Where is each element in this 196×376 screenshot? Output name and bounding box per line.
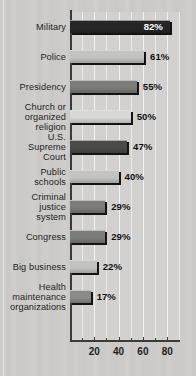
x-axis-tick-labels: 20406080 bbox=[70, 346, 190, 362]
category-label: Big business bbox=[2, 262, 66, 272]
bar[interactable] bbox=[70, 170, 119, 183]
bar-value-label: 29% bbox=[111, 201, 130, 212]
bar[interactable] bbox=[70, 260, 97, 273]
chart-row: Presidency55% bbox=[0, 72, 196, 102]
bar-value-label: 29% bbox=[111, 231, 130, 242]
chart-row: Big business22% bbox=[0, 252, 196, 282]
bar[interactable] bbox=[70, 230, 105, 243]
category-label: Police bbox=[2, 52, 66, 62]
bar[interactable] bbox=[70, 50, 144, 63]
category-label: Military bbox=[2, 22, 66, 32]
chart-row: Public schools40% bbox=[0, 162, 196, 192]
chart-row: U.S. Supreme Court47% bbox=[0, 132, 196, 162]
bar-value-label: 82% bbox=[144, 21, 163, 32]
category-label: Presidency bbox=[2, 82, 66, 92]
bar-value-label: 17% bbox=[97, 291, 116, 302]
category-label: Criminal justice system bbox=[2, 192, 66, 223]
chart-rows: Military82%Police61%Presidency55%Church … bbox=[0, 12, 196, 342]
bar[interactable] bbox=[70, 140, 127, 153]
category-label: U.S. Supreme Court bbox=[2, 132, 66, 163]
bar-value-label: 47% bbox=[133, 141, 152, 152]
chart-row: Church or organized religion50% bbox=[0, 102, 196, 132]
chart-row: Military82% bbox=[0, 12, 196, 42]
chart-row: Police61% bbox=[0, 42, 196, 72]
x-tick-label-20: 20 bbox=[89, 346, 100, 357]
bar-value-label: 22% bbox=[103, 261, 122, 272]
category-label: Public schools bbox=[2, 167, 66, 187]
x-tick-label-80: 80 bbox=[162, 346, 173, 357]
bar[interactable] bbox=[70, 200, 105, 213]
chart-row: Congress29% bbox=[0, 222, 196, 252]
category-label: Church or organized religion bbox=[2, 102, 66, 133]
bar-value-label: 40% bbox=[125, 171, 144, 182]
chart-row: Criminal justice system29% bbox=[0, 192, 196, 222]
category-label: Congress bbox=[2, 232, 66, 242]
x-tick-label-60: 60 bbox=[137, 346, 148, 357]
bar-value-label: 55% bbox=[143, 81, 162, 92]
bar-chart: Military82%Police61%Presidency55%Church … bbox=[0, 0, 196, 376]
bar[interactable] bbox=[70, 80, 137, 93]
bar[interactable] bbox=[70, 110, 131, 123]
chart-row: Health maintenance organizations17% bbox=[0, 282, 196, 312]
bar[interactable] bbox=[70, 290, 91, 303]
bar-value-label: 50% bbox=[137, 111, 156, 122]
category-label: Health maintenance organizations bbox=[2, 282, 66, 313]
bar-value-label: 61% bbox=[150, 51, 169, 62]
x-tick-label-40: 40 bbox=[113, 346, 124, 357]
